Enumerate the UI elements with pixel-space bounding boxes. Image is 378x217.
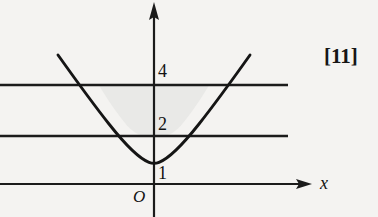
origin-label: O bbox=[133, 188, 145, 205]
figure-root: 4 2 1 O x [11] bbox=[0, 0, 378, 217]
problem-number-label: [11] bbox=[324, 46, 358, 67]
x-axis-label: x bbox=[320, 174, 328, 192]
y-tick-label-1: 1 bbox=[158, 164, 167, 182]
y-tick-label-4: 4 bbox=[158, 62, 167, 80]
y-tick-label-2: 2 bbox=[158, 115, 167, 133]
